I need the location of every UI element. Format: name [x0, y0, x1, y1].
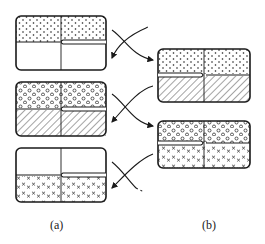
recombination-diagram: × × — [0, 0, 265, 244]
panel-b-box-2 — [158, 121, 250, 168]
crossover-arrows — [112, 26, 153, 192]
panel-a-box-3 — [16, 148, 106, 202]
panel-b-box-1 — [158, 49, 250, 102]
panel-a-box-1 — [16, 16, 106, 70]
panel-a-box-2 — [16, 82, 106, 136]
panel-a-label: (a) — [50, 218, 63, 233]
panel-b-label: (b) — [202, 218, 216, 233]
